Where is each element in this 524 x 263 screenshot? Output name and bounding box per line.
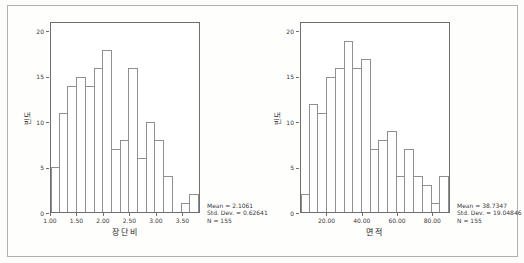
stats-annotation: Mean = 38.7347Std. Dev. = 19.04846N = 15… — [457, 202, 522, 224]
y-axis-tick-label: 0 — [280, 210, 294, 217]
figure-page: 051015201.001.502.002.503.003.50장단비빈도Mea… — [0, 0, 524, 263]
x-axis-tick-label: 3.00 — [143, 217, 169, 224]
y-axis-tick — [296, 77, 299, 78]
y-axis-tick — [46, 77, 49, 78]
x-axis-tick — [432, 213, 433, 216]
x-axis-tick — [103, 213, 104, 216]
x-axis-tick — [362, 213, 363, 216]
y-axis-tick — [296, 168, 299, 169]
x-axis-tick — [182, 213, 183, 216]
y-axis-tick-label: 5 — [280, 164, 294, 171]
y-axis-tick-label: 20 — [280, 28, 294, 35]
histogram-left: 051015201.001.502.002.503.003.50장단비빈도Mea… — [0, 0, 274, 263]
x-axis-tick-label: 40.00 — [349, 217, 375, 224]
x-axis-tick-label: 3.50 — [169, 217, 195, 224]
y-axis-tick-label: 5 — [30, 164, 44, 171]
histogram-bar — [439, 176, 449, 212]
x-axis-tick-label: 2.50 — [116, 217, 142, 224]
x-axis-tick-label: 2.00 — [90, 217, 116, 224]
histogram-right: 0510152020.0040.0060.0080.00면적빈도Mean = 3… — [250, 0, 524, 263]
x-axis-tick — [326, 213, 327, 216]
plot-area — [300, 22, 450, 213]
x-axis-title: 면적 — [300, 228, 450, 237]
y-axis-tick-label: 15 — [280, 73, 294, 80]
plot-area — [50, 22, 200, 213]
y-axis-tick-label: 20 — [30, 28, 44, 35]
x-axis-tick — [50, 213, 51, 216]
std-dev-label: Std. Dev. = 19.04846 — [457, 209, 522, 216]
y-axis-tick — [46, 31, 49, 32]
x-axis-tick — [76, 213, 77, 216]
y-axis-tick-label: 0 — [30, 210, 44, 217]
x-axis-tick-label: 60.00 — [384, 217, 410, 224]
y-axis-title: 빈도 — [24, 106, 32, 130]
histogram-bar — [163, 176, 173, 212]
x-axis-tick — [397, 213, 398, 216]
x-axis-title: 장단비 — [50, 228, 200, 237]
y-axis-title: 빈도 — [274, 106, 282, 130]
y-axis-tick-label: 15 — [30, 73, 44, 80]
n-label: N = 155 — [457, 217, 522, 224]
x-axis-tick-label: 1.00 — [37, 217, 63, 224]
x-axis-tick — [156, 213, 157, 216]
y-axis-tick — [46, 213, 49, 214]
y-axis-tick — [296, 31, 299, 32]
x-axis-tick-label: 20.00 — [313, 217, 339, 224]
y-axis-tick — [46, 168, 49, 169]
mean-label: Mean = 38.7347 — [457, 202, 522, 209]
y-axis-tick — [296, 213, 299, 214]
histogram-bar — [189, 194, 199, 212]
x-axis-tick-label: 80.00 — [419, 217, 445, 224]
x-axis-tick — [129, 213, 130, 216]
y-axis-tick-label: 10 — [30, 119, 44, 126]
x-axis-tick-label: 1.50 — [63, 217, 89, 224]
y-axis-tick — [296, 122, 299, 123]
y-axis-tick — [46, 122, 49, 123]
y-axis-tick-label: 10 — [280, 119, 294, 126]
